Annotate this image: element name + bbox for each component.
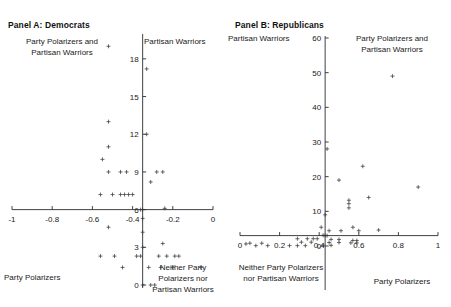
panel-a-data-point — [177, 254, 181, 258]
panel-b-data-point — [357, 229, 361, 233]
panel-b-data-point — [337, 178, 341, 182]
panel-b-y-tick-label: 10 — [312, 207, 321, 216]
panel-a-data-point — [119, 193, 123, 197]
panel-b-data-point — [329, 243, 333, 247]
panel-a-y-tick-label: 18 — [130, 55, 139, 64]
panel-b-data-point — [319, 225, 323, 229]
panel-a-data-point — [98, 254, 102, 258]
panel-b-y-tick-label: 60 — [312, 34, 321, 43]
panel-a-data-point — [141, 283, 145, 287]
panel-a-data-point — [111, 193, 115, 197]
panel-a-data-point — [173, 254, 177, 258]
panel-a-data-point — [141, 230, 145, 234]
panel-a-data-point — [106, 145, 110, 149]
panel-a-data-point — [141, 208, 145, 212]
panel-a-data-point — [113, 254, 117, 258]
panel-b-data-point — [390, 74, 394, 78]
panel-a-data-point — [106, 225, 110, 229]
panel-b-data-point — [266, 244, 270, 248]
panel-b-y-tick-label: 40 — [312, 103, 321, 112]
panel-a-data-point — [199, 265, 203, 269]
panel-a-x-tick-label: 0 — [211, 215, 216, 224]
panel-a-x-tick-label: -0.8 — [45, 215, 59, 224]
panel-b-x-tick-label: 0.6 — [353, 241, 365, 250]
panel-b-data-point — [325, 234, 329, 238]
panel-b-data-point — [248, 241, 252, 245]
panel-b-data-point — [329, 237, 333, 241]
panel-a-data-point — [121, 265, 125, 269]
panel-a-data-point — [106, 170, 110, 174]
panel-a-x-tick-label: -0.4 — [126, 215, 140, 224]
panel-b-data-point — [244, 242, 248, 246]
panel-b-data-point — [339, 229, 343, 233]
panel-a-x-tick-label: -1 — [8, 215, 16, 224]
panel-b-data-point — [254, 244, 258, 248]
panel-a-y-tick-label: 12 — [130, 130, 139, 139]
panel-b-plot-area: 00.20.40.60.810102030405060 — [226, 0, 451, 307]
panel-a-data-point — [106, 120, 110, 124]
panel-b-y-tick-label: 20 — [312, 173, 321, 182]
panel-a-data-point — [157, 254, 161, 258]
panel-b-x-tick-label: 0.2 — [274, 241, 286, 250]
panel-a-democrats: Panel A: Democrats Party Polarizers and … — [0, 0, 225, 307]
scatter-figure: Panel A: Democrats Party Polarizers and … — [0, 0, 451, 307]
panel-a-data-point — [171, 265, 175, 269]
panel-a-data-point — [119, 170, 123, 174]
panel-a-data-point — [149, 180, 153, 184]
panel-a-data-point — [100, 157, 104, 161]
panel-b-data-point — [299, 240, 303, 244]
panel-a-data-point — [135, 254, 139, 258]
panel-a-data-point — [155, 170, 159, 174]
panel-b-data-points — [244, 74, 420, 248]
panel-a-data-point — [131, 193, 135, 197]
panel-b-data-point — [295, 244, 299, 248]
panel-a-data-point — [106, 44, 110, 48]
panel-b-data-point — [303, 244, 307, 248]
panel-b-x-tick-label: 1 — [436, 241, 441, 250]
panel-a-data-point — [165, 254, 169, 258]
panel-a-data-points — [98, 44, 203, 287]
panel-a-data-point — [123, 193, 127, 197]
panel-b-x-tick-label: 0 — [238, 241, 243, 250]
panel-a-y-tick-label: 9 — [134, 168, 139, 177]
panel-a-y-tick-label: 6 — [134, 206, 139, 215]
panel-b-y-tick-label: 0 — [317, 242, 322, 251]
panel-b-data-point — [260, 241, 264, 245]
panel-a-data-point — [159, 265, 163, 269]
panel-b-data-point — [347, 198, 351, 202]
panel-b-data-point — [361, 164, 365, 168]
panel-a-data-point — [161, 170, 165, 174]
panel-b-data-point — [288, 244, 292, 248]
panel-a-data-point — [139, 254, 143, 258]
panel-a-x-tick-label: -0.2 — [166, 215, 180, 224]
panel-b-data-point — [416, 185, 420, 189]
panel-b-x-tick-label: 0.8 — [393, 241, 405, 250]
panel-a-y-tick-label: 3 — [134, 243, 139, 252]
panel-a-data-point — [145, 132, 149, 136]
panel-b-data-point — [305, 237, 309, 241]
panel-b-republicans: Panel B: Republicans Partisan Warriors P… — [226, 0, 451, 307]
panel-b-data-point — [325, 147, 329, 151]
panel-b-data-point — [351, 225, 355, 229]
panel-a-data-point — [149, 283, 153, 287]
panel-b-data-point — [367, 195, 371, 199]
panel-b-data-point — [323, 213, 327, 217]
panel-b-y-tick-label: 30 — [312, 138, 321, 147]
panel-a-y-tick-label: 15 — [130, 93, 139, 102]
panel-b-data-point — [337, 241, 341, 245]
panel-b-y-tick-label: 50 — [312, 69, 321, 78]
panel-a-data-point — [141, 216, 145, 220]
panel-a-data-point — [161, 242, 165, 246]
panel-a-data-point — [98, 193, 102, 197]
panel-b-data-point — [327, 229, 331, 233]
panel-a-plot-area: -1-0.8-0.6-0.4-0.200369121518 — [0, 0, 225, 307]
panel-b-data-point — [327, 241, 331, 245]
panel-a-data-point — [127, 193, 131, 197]
panel-b-data-point — [347, 206, 351, 210]
panel-a-y-tick-label: 0 — [134, 281, 139, 290]
panel-b-data-point — [377, 228, 381, 232]
panel-a-x-tick-label: -0.6 — [86, 215, 100, 224]
panel-a-data-point — [141, 245, 145, 249]
panel-b-data-point — [295, 237, 299, 241]
panel-a-data-point — [147, 265, 151, 269]
